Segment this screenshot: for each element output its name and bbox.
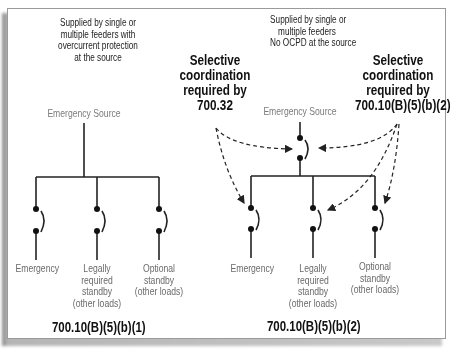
left-load-optional: Optional standby (other loads) <box>134 263 183 298</box>
right-load-optional: Optional standby (other loads) <box>350 261 399 296</box>
load-label-line: Optional <box>350 261 399 273</box>
left-supply-note: Supplied by single or multiple feeders w… <box>57 17 139 63</box>
right-source-label: Emergency Source <box>259 105 341 117</box>
load-label-line: Optional <box>134 263 183 275</box>
note-line: Supplied by single or <box>270 14 344 26</box>
note-line: overcurrent protection <box>57 40 139 52</box>
note-line: Supplied by single or <box>57 17 139 29</box>
callout-line: required by <box>172 82 258 97</box>
load-label-line: (other loads) <box>288 298 337 310</box>
arrow-b2-to-optional <box>385 124 399 203</box>
left-breaker-contacts <box>33 206 162 234</box>
load-label-line: Legally <box>72 263 121 275</box>
left-feeder-schematic <box>36 123 167 260</box>
load-label-line: (other loads) <box>72 298 121 310</box>
note-line: at the source <box>57 52 139 64</box>
right-supply-note: Supplied by single or multiple feeders N… <box>270 14 344 49</box>
load-label-line: Emergency <box>16 263 57 275</box>
callout-line: coordination <box>355 67 441 82</box>
callout-line: Selective <box>172 52 258 67</box>
left-load-legally-required: Legally required standby (other loads) <box>72 263 121 309</box>
left-load-emergency: Emergency <box>16 263 57 275</box>
callout-700-32: Selective coordination required by 700.3… <box>172 52 258 112</box>
left-code-reference: 700.10(B)(5)(b)(1) <box>52 319 142 335</box>
callout-line: required by <box>355 82 441 97</box>
left-source-label: Emergency Source <box>43 107 125 119</box>
load-label-line: (other loads) <box>350 284 399 296</box>
load-label-line: Emergency <box>231 263 272 275</box>
callout-line: Selective <box>355 52 441 67</box>
arrow-b2-to-legally-required <box>328 124 397 210</box>
note-line: multiple feeders with <box>57 29 139 41</box>
callout-700-10-b2: Selective coordination required by 700.1… <box>355 52 441 112</box>
load-label-line: standby <box>288 286 337 298</box>
arrow-700-32-to-emergency <box>216 128 244 203</box>
callout-line: 700.32 <box>172 97 258 112</box>
right-load-legally-required: Legally required standby (other loads) <box>288 263 337 309</box>
callout-line: coordination <box>172 67 258 82</box>
note-line: No OCPD at the source <box>270 37 344 49</box>
load-label-line: (other loads) <box>134 286 183 298</box>
right-code-reference: 700.10(B)(5)(b)(2) <box>267 318 357 334</box>
callout-line: 700.10(B)(5)(b)(2) <box>355 97 441 112</box>
right-load-emergency: Emergency <box>231 263 272 275</box>
load-label-line: Legally <box>288 263 337 275</box>
arrow-700-32-to-source <box>216 128 292 149</box>
note-line: multiple feeders <box>270 26 344 38</box>
callout-arrows <box>216 124 399 210</box>
arrow-b2-to-source <box>319 124 397 148</box>
right-feeder-schematic <box>251 122 383 258</box>
load-label-line: standby <box>72 286 121 298</box>
